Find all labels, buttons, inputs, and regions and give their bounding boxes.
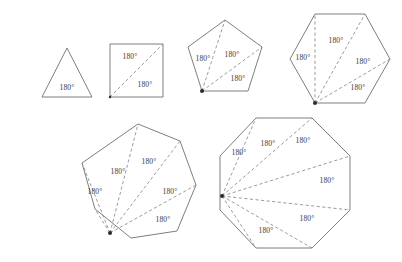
heptagon-angle-label-3: 180° [142, 157, 157, 166]
heptagon-apex-dot [108, 231, 112, 235]
pentagon-angle-label-1: 180° [196, 54, 211, 63]
heptagon-angle-label-2: 180° [111, 167, 126, 176]
heptagon-angle-label-5: 180° [156, 215, 171, 224]
shape-group-triangle: 180° [42, 48, 92, 97]
octagon-angle-label-3: 180° [296, 136, 311, 145]
polygon-triangulation-diagram: 180° 180°180° 180°180°180° 180°180°180°1… [0, 0, 402, 262]
heptagon-angle-label-4: 180° [163, 187, 178, 196]
heptagon-angle-label-1: 180° [88, 187, 103, 196]
hexagon-angle-label-1: 180° [296, 53, 311, 62]
pentagon-apex-dot [200, 89, 204, 93]
hexagon-apex-vertex-dot [313, 101, 317, 105]
pentagon-apex-vertex-dot [200, 89, 204, 93]
octagon-apex-dot [220, 194, 224, 198]
square-angle-label-2: 180° [138, 80, 153, 89]
heptagon-apex-vertex-dot [108, 231, 112, 235]
octagon-angle-label-4: 180° [320, 176, 335, 185]
octagon-angle-label-6: 180° [259, 226, 274, 235]
octagon-apex-vertex-dot [220, 194, 224, 198]
pentagon-angle-label-3: 180° [231, 74, 246, 83]
square-angle-label-1: 180° [123, 52, 138, 61]
heptagon-outline [82, 124, 196, 238]
octagon-angle-label-1: 180° [232, 148, 247, 157]
octagon-angle-label-5: 180° [300, 214, 315, 223]
shape-group-square: 180°180° [109, 44, 163, 98]
square-apex-dot [109, 96, 111, 98]
octagon-angle-label-2: 180° [261, 139, 276, 148]
triangle-labels: 180° [60, 83, 75, 92]
pentagon-angle-label-2: 180° [225, 50, 240, 59]
shape-group-hexagon: 180°180°180°180° [290, 14, 390, 105]
square-apex-vertex-dot [109, 96, 111, 98]
hexagon-angle-label-2: 180° [329, 36, 344, 45]
hexagon-angle-label-4: 180° [351, 83, 366, 92]
shape-group-heptagon: 180°180°180°180°180° [82, 124, 196, 238]
shape-group-pentagon: 180°180°180° [188, 20, 262, 93]
figure-canvas: 180° 180°180° 180°180°180° 180°180°180°1… [0, 0, 402, 262]
hexagon-angle-label-3: 180° [356, 57, 371, 66]
shape-group-octagon: 180°180°180°180°180°180° [220, 118, 350, 248]
hexagon-apex-dot [313, 101, 317, 105]
triangle-angle-label-1: 180° [60, 83, 75, 92]
